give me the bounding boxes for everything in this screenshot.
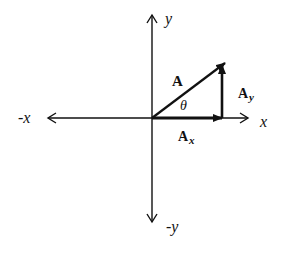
ay-label-sub: y bbox=[247, 91, 254, 103]
ax-label: A x bbox=[178, 129, 195, 146]
pos-x-label: x bbox=[259, 113, 267, 130]
neg-x-label: -x bbox=[18, 109, 30, 126]
vector-a-label: A bbox=[172, 73, 183, 89]
ay-label: A y bbox=[238, 86, 254, 103]
vector-diagram: -x x y -y A θ A x A y bbox=[0, 0, 285, 253]
ax-label-main: A bbox=[178, 129, 189, 144]
pos-y-label: y bbox=[163, 10, 173, 28]
angle-theta-label: θ bbox=[180, 98, 187, 113]
vector-a bbox=[152, 63, 225, 118]
neg-y-label: -y bbox=[166, 218, 179, 236]
ay-label-main: A bbox=[238, 86, 249, 101]
ax-label-sub: x bbox=[188, 134, 195, 146]
